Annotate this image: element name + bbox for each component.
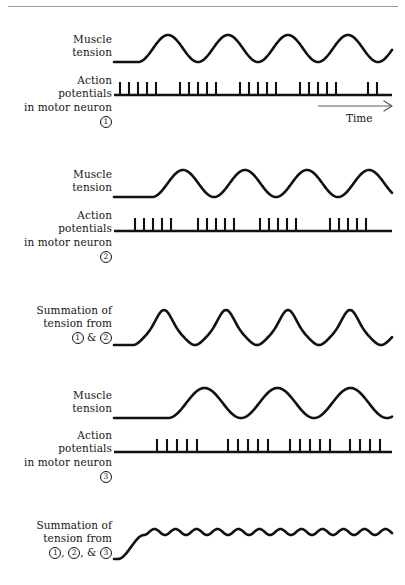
label-line: potentials [8,442,112,455]
label-line: Summation of [8,304,112,317]
circled-number-1: 1 [100,116,112,128]
label-line: in motor neuron [8,236,112,249]
tension-curve-muscle-tension-3 [114,388,392,418]
panel-muscle-tension-2 [114,170,392,197]
label-muscle-tension-3: Muscletension [20,389,112,416]
tension-curve-muscle-tension-1 [114,35,392,62]
label-line: in motor neuron [8,101,112,114]
label-line: tension [20,181,112,194]
label-line: Muscle [20,33,112,46]
label-summation-1-2-3: Summation oftension from1, 2, & 3 [8,519,112,559]
label-neuron-number: 3 [8,469,112,483]
panel-summation-1-2 [114,310,392,345]
circled-number-1: 1 [49,547,61,559]
panel-muscle-tension-3 [114,388,392,418]
circled-number-2: 2 [100,332,112,344]
panel-action-potentials-2 [114,218,392,231]
label-line: Muscle [20,389,112,402]
panel-action-potentials-3 [114,439,392,452]
figure-canvas: MuscletensionActionpotentialsin motor ne… [0,0,405,585]
label-line: Action [8,209,112,222]
label-action-potentials-2: Actionpotentialsin motor neuron2 [8,209,112,263]
label-line: tension from [8,532,112,545]
label-line: Action [8,429,112,442]
label-neuron-pair: 1 & 2 [8,331,112,345]
label-line: tension [20,46,112,59]
label-muscle-tension-2: Muscletension [20,168,112,195]
circled-number-2: 2 [100,251,112,263]
label-line: potentials [8,222,112,235]
time-axis-label: Time [346,112,373,124]
tension-curve-summation-1-2 [114,310,392,345]
circled-number-2: 2 [68,547,80,559]
label-summation-1-2: Summation oftension from1 & 2 [8,304,112,344]
label-neuron-number: 1 [8,114,112,128]
label-neuron-number: 2 [8,249,112,263]
time-axis-arrow [318,101,392,111]
label-line: Summation of [8,519,112,532]
circled-number-3: 3 [100,547,112,559]
circled-number-3: 3 [100,471,112,483]
label-neuron-triple: 1, 2, & 3 [8,546,112,560]
label-line: Action [8,74,112,87]
label-line: tension from [8,317,112,330]
label-line: tension [20,402,112,415]
top-divider-rule [8,6,398,7]
label-line: in motor neuron [8,456,112,469]
label-line: Muscle [20,168,112,181]
panel-action-potentials-1 [114,82,392,95]
tension-curve-summation-1-2-3 [114,529,392,559]
label-action-potentials-3: Actionpotentialsin motor neuron3 [8,429,112,483]
label-line: potentials [8,87,112,100]
label-muscle-tension-1: Muscletension [20,33,112,60]
panel-summation-1-2-3 [114,529,392,559]
panel-muscle-tension-1 [114,35,392,62]
circled-number-1: 1 [72,332,84,344]
tension-curve-muscle-tension-2 [114,170,392,197]
label-action-potentials-1: Actionpotentialsin motor neuron1 [8,74,112,128]
